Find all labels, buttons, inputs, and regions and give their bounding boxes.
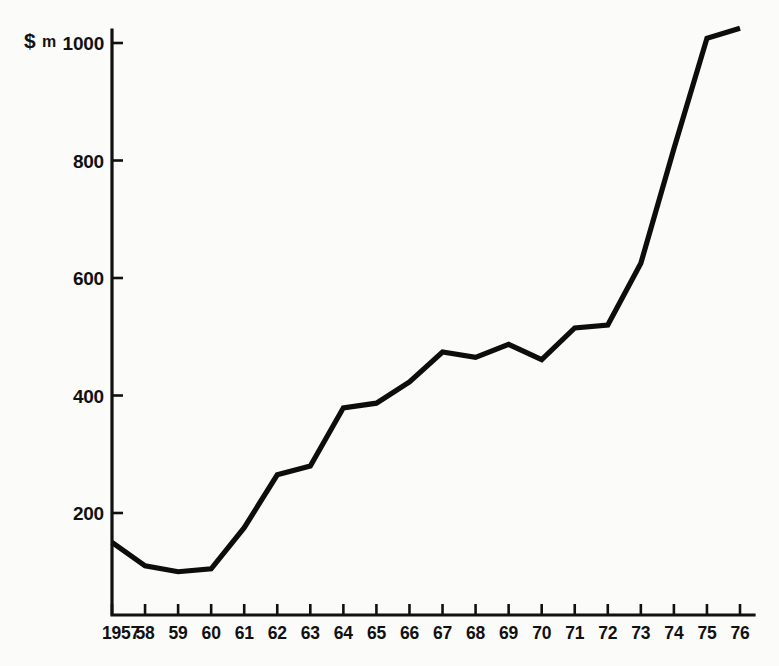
y-axis-tick-marks (112, 43, 123, 513)
x-axis-tick-marks (112, 604, 740, 615)
data-series-line (112, 28, 740, 571)
x-axis-tick-label: 1957 (102, 623, 140, 643)
y-axis-tick-label: 1000 (63, 33, 104, 54)
y-axis-unit-suffix: m (42, 33, 56, 50)
x-axis-tick-label: 66 (400, 623, 420, 643)
axis-unit-label: $ m (24, 29, 56, 52)
y-axis-currency-symbol: $ (24, 29, 36, 52)
x-axis-tick-label: 67 (433, 623, 452, 643)
x-axis-tick-labels: 1957585960616263646566676869707172737475… (102, 623, 750, 643)
x-axis-tick-label: 75 (697, 623, 717, 643)
y-axis-tick-label: 200 (73, 503, 104, 524)
x-axis-tick-label: 69 (499, 623, 519, 643)
x-axis-tick-label: 62 (268, 623, 288, 643)
x-axis-tick-label: 70 (532, 623, 552, 643)
x-axis-tick-label: 76 (730, 623, 750, 643)
x-axis-tick-label: 59 (169, 623, 189, 643)
x-axis-tick-label: 58 (136, 623, 156, 643)
y-axis-tick-label: 600 (73, 268, 104, 289)
x-axis-tick-label: 74 (664, 623, 684, 643)
y-axis-tick-label: 400 (73, 386, 104, 407)
y-axis-tick-labels: 2004006008001000 (63, 33, 104, 524)
x-axis-tick-label: 73 (631, 623, 651, 643)
x-axis-tick-label: 60 (202, 623, 222, 643)
x-axis-tick-label: 72 (598, 623, 618, 643)
x-axis-tick-label: 71 (565, 623, 585, 643)
x-axis-tick-label: 68 (466, 623, 486, 643)
x-axis-tick-label: 65 (367, 623, 387, 643)
line-chart: $ m 2004006008001000 1957585960616263646… (0, 0, 779, 666)
chart-axes (112, 30, 754, 615)
y-axis-tick-label: 800 (73, 151, 104, 172)
x-axis-tick-label: 61 (235, 623, 255, 643)
x-axis-tick-label: 63 (301, 623, 321, 643)
chart-container: $ m 2004006008001000 1957585960616263646… (0, 0, 779, 666)
x-axis-tick-label: 64 (334, 623, 354, 643)
